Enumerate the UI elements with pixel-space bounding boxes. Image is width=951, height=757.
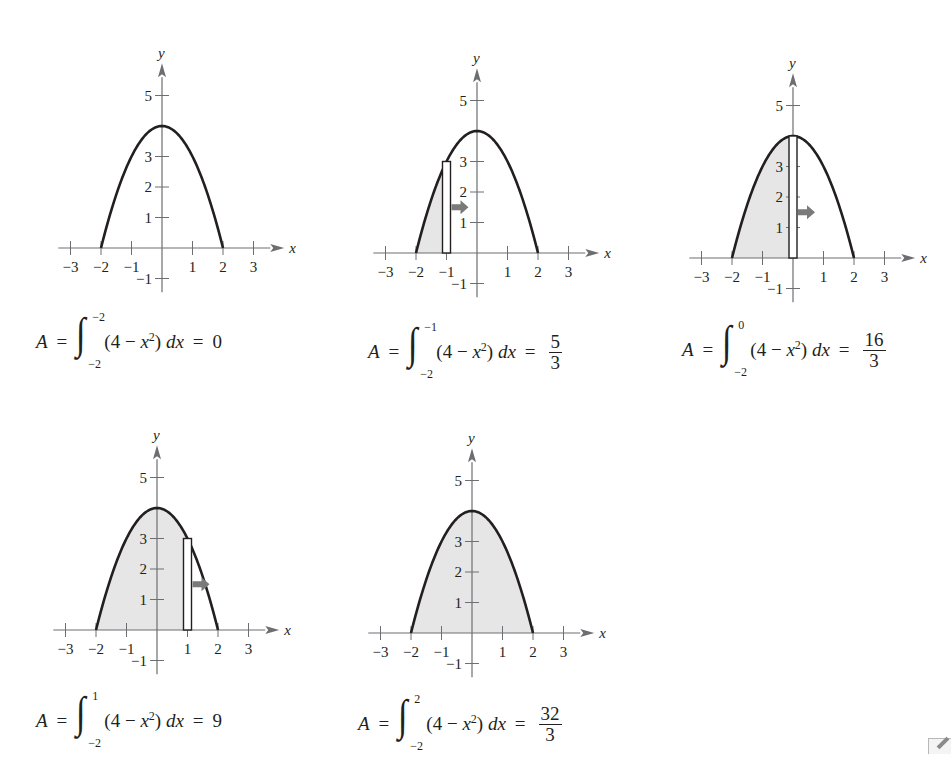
upper-limit: 1 [92, 689, 98, 704]
y-tick-label: 2 [140, 561, 148, 577]
x-tick-label: −2 [93, 259, 109, 275]
y-tick-label: 5 [460, 93, 468, 109]
y-tick-label: 3 [455, 534, 463, 550]
area-formula-5: A=∫2−2(4 − x2) dx=323 [358, 700, 562, 748]
area-result: 163 [863, 330, 886, 371]
area-formula-1: A=∫−2−2(4 − x2) dx=0 [36, 318, 222, 366]
y-tick-label: 5 [455, 473, 463, 489]
y-axis-label: y [151, 427, 160, 443]
y-axis-label: y [787, 55, 796, 71]
x-tick-label: 2 [529, 644, 537, 660]
x-tick-label: 2 [850, 269, 858, 285]
x-axis-arrow-icon [585, 249, 599, 257]
integrand: (4 − x2) dx [750, 339, 830, 361]
x-tick-label: 2 [214, 641, 222, 657]
x-axis-label: x [603, 245, 611, 261]
representative-rectangle [184, 539, 192, 631]
integrand: (4 − x2) dx [436, 341, 516, 363]
lower-limit: −2 [734, 365, 747, 380]
x-tick-label: 1 [499, 644, 507, 660]
y-axis-arrow-icon [153, 445, 161, 459]
area-result: 9 [213, 710, 223, 732]
y-tick-label: 2 [145, 179, 153, 195]
y-tick-label: 5 [140, 470, 148, 486]
y-tick-label: 2 [460, 184, 468, 200]
y-tick-label: 2 [455, 564, 463, 580]
y-tick-label: 1 [145, 210, 153, 226]
x-axis-label: x [598, 625, 606, 641]
y-axis-arrow-icon [473, 68, 481, 82]
y-axis-label: y [156, 45, 165, 61]
lower-limit: −2 [410, 739, 423, 754]
x-tick-label: 1 [184, 641, 192, 657]
lower-limit: −2 [420, 367, 433, 382]
y-axis-label: y [471, 50, 480, 66]
x-tick-label: −3 [63, 259, 79, 275]
x-tick-label: 3 [245, 641, 253, 657]
integrand: (4 − x2) dx [104, 331, 184, 353]
x-tick-label: 1 [189, 259, 197, 275]
y-tick-label: 3 [776, 159, 784, 175]
upper-limit: 2 [414, 692, 420, 707]
x-tick-label: −3 [373, 644, 389, 660]
upper-limit: −2 [92, 310, 105, 325]
x-tick-label: 3 [881, 269, 889, 285]
y-tick-label: −1 [767, 281, 783, 297]
formula-lhs: A [368, 341, 380, 363]
x-axis-arrow-icon [901, 254, 915, 262]
y-tick-label: −1 [451, 276, 467, 292]
x-axis-arrow-icon [270, 244, 284, 252]
x-tick-label: 1 [820, 269, 828, 285]
formula-lhs: A [36, 331, 48, 353]
x-tick-label: 2 [534, 264, 542, 280]
x-tick-label: 3 [250, 259, 258, 275]
x-axis-arrow-icon [265, 626, 279, 634]
integral-sign-icon: ∫0−2 [722, 326, 748, 374]
area-formula-3: A=∫0−2(4 − x2) dx=163 [682, 326, 886, 374]
y-axis-arrow-icon [468, 448, 476, 462]
graph-panel-3: xy−3−2−1123−11235 [689, 55, 927, 302]
integral-sign-icon: ∫−2−2 [76, 318, 102, 366]
y-tick-label: 1 [776, 220, 784, 236]
x-tick-label: −3 [378, 264, 394, 280]
area-result: 323 [539, 704, 562, 745]
y-tick-label: 1 [140, 592, 148, 608]
pencil-icon[interactable] [928, 738, 951, 754]
graph-panel-4: xy−3−2−1123−11235 [53, 427, 291, 674]
x-tick-label: −2 [408, 264, 424, 280]
lower-limit: −2 [88, 357, 101, 372]
integrand: (4 − x2) dx [426, 713, 506, 735]
y-tick-label: 5 [145, 88, 153, 104]
integral-sign-icon: ∫−1−2 [408, 328, 434, 376]
y-tick-label: 3 [140, 531, 148, 547]
graph-panel-2: xy−3−2−1123−11235 [373, 50, 611, 297]
y-tick-label: −1 [446, 656, 462, 672]
graph-panel-1: xy−3−2−1123−11235 [58, 45, 296, 292]
formula-lhs: A [358, 713, 370, 735]
x-axis-arrow-icon [580, 629, 594, 637]
y-axis-label: y [466, 430, 475, 446]
y-tick-label: 1 [460, 215, 468, 231]
graph-panel-5: xy−3−2−1123−11235 [368, 430, 606, 677]
lower-limit: −2 [88, 736, 101, 751]
y-tick-label: 5 [776, 98, 784, 114]
formula-lhs: A [682, 339, 694, 361]
y-axis-arrow-icon [158, 63, 166, 77]
representative-rectangle [789, 136, 797, 258]
y-tick-label: −1 [136, 271, 152, 287]
y-tick-label: 3 [460, 154, 468, 170]
representative-rectangle [443, 162, 451, 254]
area-formula-2: A=∫−1−2(4 − x2) dx=53 [368, 328, 562, 376]
right-arrow-icon [452, 200, 469, 214]
x-tick-label: −2 [403, 644, 419, 660]
x-tick-label: 2 [219, 259, 227, 275]
x-tick-label: −3 [58, 641, 74, 657]
shaded-area [732, 136, 793, 258]
area-formula-4: A=∫1−2(4 − x2) dx=9 [36, 697, 222, 745]
x-axis-label: x [283, 622, 291, 638]
x-tick-label: 3 [565, 264, 573, 280]
area-result: 0 [213, 331, 223, 353]
upper-limit: −1 [424, 320, 437, 335]
y-tick-label: −1 [131, 653, 147, 669]
